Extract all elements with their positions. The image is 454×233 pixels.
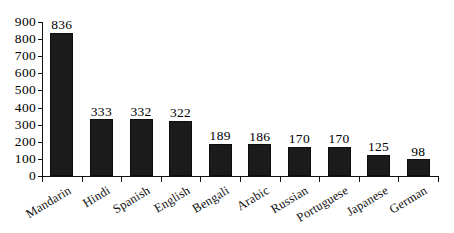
- y-axis-tick-label: 100: [15, 152, 36, 166]
- y-axis-tick-label: 500: [15, 84, 36, 98]
- bar: 332: [130, 119, 153, 176]
- x-axis-category-label-text: Hindi: [81, 184, 113, 210]
- x-axis-category-label-text: Mandarin: [24, 184, 73, 221]
- bar: 836: [50, 33, 73, 176]
- y-axis-tick-mark: [38, 90, 42, 91]
- bar-value-label: 322: [170, 106, 191, 120]
- y-axis-tick-label: 300: [15, 118, 36, 132]
- y-axis-tick-mark: [38, 108, 42, 109]
- y-axis-tick-mark: [38, 142, 42, 143]
- y-axis-tick-mark: [38, 22, 42, 23]
- bar-value-label: 170: [328, 132, 349, 146]
- y-axis-tick-label: 900: [15, 15, 36, 29]
- y-axis-tick-mark: [38, 73, 42, 74]
- y-axis-tick-mark: [38, 159, 42, 160]
- bar-value-label: 170: [289, 132, 310, 146]
- bar-value-label: 332: [130, 105, 151, 119]
- plot-area: 83633333232218918617017012598: [42, 22, 438, 176]
- bar-value-label: 189: [210, 129, 231, 143]
- bar-value-label: 333: [91, 105, 112, 119]
- bar-value-label: 125: [368, 140, 389, 154]
- x-axis-tick-mark: [42, 177, 43, 182]
- y-axis-tick-label: 0: [29, 169, 36, 183]
- bar-value-label: 186: [249, 130, 270, 144]
- y-axis-tick-label: 700: [15, 49, 36, 63]
- y-axis-tick-mark: [38, 56, 42, 57]
- y-axis-tick-label: 600: [15, 67, 36, 81]
- bar-value-label: 836: [51, 18, 72, 32]
- y-axis-tick-label: 800: [15, 32, 36, 46]
- y-axis-tick-mark: [38, 125, 42, 126]
- y-axis-tick-label: 400: [15, 101, 36, 115]
- bar-chart: 83633333232218918617017012598 0100200300…: [0, 0, 454, 233]
- y-axis-tick-mark: [38, 39, 42, 40]
- bar-value-label: 98: [411, 145, 425, 159]
- y-axis-tick-label: 200: [15, 135, 36, 149]
